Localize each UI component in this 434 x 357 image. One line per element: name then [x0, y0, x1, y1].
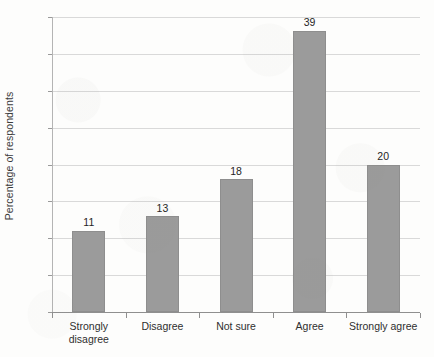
bar[interactable] — [293, 31, 326, 313]
bar-value-label: 11 — [83, 217, 94, 228]
x-tick-mark — [273, 313, 274, 318]
x-tick-label: Strongly disagree — [52, 320, 126, 346]
bar[interactable] — [72, 231, 105, 312]
bar-value-label: 13 — [157, 203, 169, 214]
bar-group[interactable]: 11 — [72, 17, 105, 312]
x-tick-mark — [346, 313, 347, 318]
y-axis-title-label: Percentage of respondents — [3, 92, 15, 221]
bar[interactable] — [367, 165, 400, 313]
bar-group[interactable]: 13 — [146, 17, 179, 312]
x-tick-mark — [126, 313, 127, 318]
y-axis-title: Percentage of respondents — [0, 0, 18, 312]
x-tick-label: Disagree — [126, 320, 200, 333]
x-tick-label: Strongly agree — [346, 320, 420, 333]
bar-group[interactable]: 20 — [367, 17, 400, 312]
bar[interactable] — [220, 179, 253, 312]
bar-value-label: 18 — [230, 166, 242, 177]
bar[interactable] — [146, 216, 179, 312]
x-tick-mark — [199, 313, 200, 318]
bar-value-label: 20 — [377, 151, 389, 162]
x-tick-mark — [52, 313, 53, 318]
bar-group[interactable]: 39 — [293, 17, 326, 312]
bar-chart: Percentage of respondents 05101520253035… — [0, 0, 434, 357]
y-axis-line — [52, 17, 53, 313]
plot-area: 05101520253035401113183920 — [52, 17, 420, 312]
x-tick-label: Not sure — [199, 320, 273, 333]
bar-value-label: 39 — [304, 17, 316, 28]
x-axis-line — [52, 312, 420, 313]
x-tick-label: Agree — [273, 320, 347, 333]
bar-group[interactable]: 18 — [220, 17, 253, 312]
x-tick-mark — [420, 313, 421, 318]
